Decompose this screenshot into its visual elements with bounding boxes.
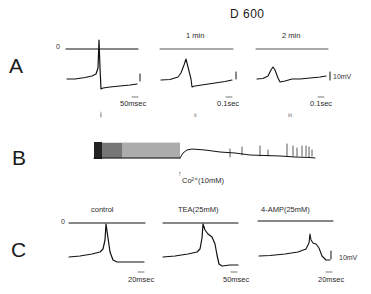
trace-a-iii (257, 67, 326, 82)
trace-c-tea (163, 224, 238, 266)
trace-c-control (69, 224, 144, 262)
trace-b-late-spikes (230, 144, 312, 157)
traces-canvas (0, 0, 371, 294)
trace-c-4amp (259, 234, 330, 260)
trace-b-after-cobalt (180, 149, 315, 158)
trace-a-ii (161, 59, 232, 87)
trace-b-spike-train (94, 142, 180, 159)
trace-a-i (67, 40, 137, 89)
